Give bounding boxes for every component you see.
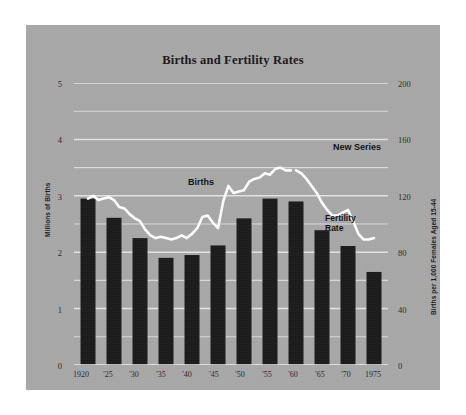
left-axis-tick-4: 4 bbox=[36, 135, 62, 145]
chart-panel: Births and Fertility Rates Millions of B… bbox=[26, 25, 440, 390]
bar bbox=[367, 272, 382, 365]
right-axis-tick-40: 40 bbox=[398, 305, 430, 315]
left-axis-tick-0: 0 bbox=[36, 361, 62, 371]
bar bbox=[289, 201, 304, 365]
chart-figure: Births and Fertility Rates Millions of B… bbox=[0, 0, 466, 415]
bar bbox=[211, 245, 226, 365]
births-annotation: Births bbox=[188, 177, 214, 187]
right-axis-tick-120: 120 bbox=[398, 192, 430, 202]
bar bbox=[263, 199, 278, 365]
bar bbox=[159, 258, 174, 365]
bar bbox=[107, 218, 122, 365]
left-axis-tick-2: 2 bbox=[36, 248, 62, 258]
right-axis-tick-0: 0 bbox=[398, 361, 430, 371]
right-axis-title: Births per 1,000 Females Aged 15-44 bbox=[430, 199, 437, 315]
left-axis-tick-5: 5 bbox=[36, 79, 62, 89]
x-axis-tick-11: 1975 bbox=[355, 370, 391, 379]
left-axis-title: Millions of Births bbox=[44, 182, 51, 237]
fertility-rate-annotation-line2: Rate bbox=[325, 224, 356, 234]
chart-title: Births and Fertility Rates bbox=[26, 53, 440, 68]
bar bbox=[185, 255, 200, 365]
right-axis-tick-80: 80 bbox=[398, 248, 430, 258]
bar bbox=[315, 230, 330, 365]
fertility-rate-annotation: Fertility Rate bbox=[325, 214, 356, 234]
bar bbox=[81, 199, 96, 365]
bar bbox=[133, 238, 148, 365]
bar bbox=[237, 218, 252, 365]
right-axis-tick-200: 200 bbox=[398, 79, 430, 89]
left-axis-tick-1: 1 bbox=[36, 305, 62, 315]
new-series-annotation: New Series bbox=[333, 142, 381, 152]
right-axis-tick-160: 160 bbox=[398, 135, 430, 145]
bar bbox=[341, 246, 356, 365]
left-axis-tick-3: 3 bbox=[36, 192, 62, 202]
